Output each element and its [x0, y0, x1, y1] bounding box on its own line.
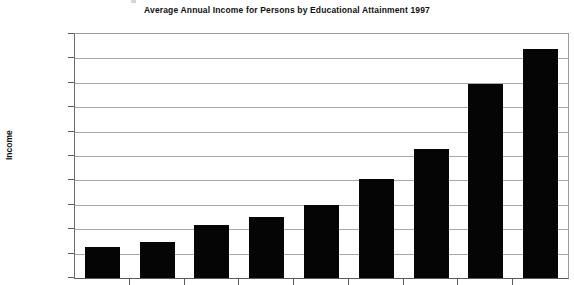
bar: [249, 217, 284, 278]
bar: [140, 242, 175, 278]
gridline: [75, 58, 568, 59]
x-axis-tick-mark: [129, 278, 130, 285]
plot-area: [74, 33, 569, 279]
x-axis-tick-mark: [403, 278, 404, 285]
x-axis-tick-mark: [348, 278, 349, 285]
x-axis-tick-mark: [512, 278, 513, 285]
x-axis-tick-mark: [457, 278, 458, 285]
x-axis-tick-mark: [184, 278, 185, 285]
x-axis-tick-mark: [293, 278, 294, 285]
bar: [359, 179, 394, 278]
bar-chart: Average Annual Income for Persons by Edu…: [0, 0, 574, 285]
bar: [194, 225, 229, 278]
chart-title: Average Annual Income for Persons by Edu…: [0, 5, 574, 15]
y-axis-title: Income: [2, 112, 16, 178]
bar: [85, 247, 120, 278]
bar: [523, 49, 558, 278]
scan-artifact: [131, 0, 136, 3]
bar: [414, 149, 449, 278]
x-axis-tick-mark: [238, 278, 239, 285]
bar: [468, 84, 503, 278]
bar: [304, 205, 339, 278]
